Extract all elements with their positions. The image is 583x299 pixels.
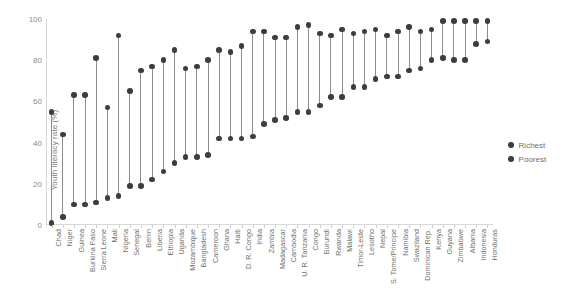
plot-area (46, 19, 493, 225)
x-axis-tick-label: Burkina Faso (88, 229, 97, 272)
range-connector-line (319, 33, 320, 105)
range-connector-line (219, 50, 220, 139)
x-axis-tick-mark (309, 225, 310, 228)
y-axis-tick-label: 100 (29, 15, 42, 24)
x-axis-tick-mark (186, 225, 187, 228)
y-axis-tick-label: 0 (38, 221, 42, 230)
x-axis-tick-label: Bangladesh (199, 229, 208, 267)
range-connector-line (230, 52, 231, 139)
data-point-poorest (306, 109, 312, 115)
data-point-richest (93, 55, 99, 61)
data-point-poorest (462, 57, 468, 63)
y-axis-tick-label: 80 (33, 56, 42, 65)
data-point-richest (295, 24, 301, 30)
x-axis-tick-mark (376, 225, 377, 228)
y-axis-line (46, 19, 47, 225)
x-axis-tick-mark (96, 225, 97, 228)
x-axis-tick-label: Kenya (434, 229, 443, 250)
data-point-richest (205, 57, 211, 63)
x-axis-tick-mark (432, 225, 433, 228)
range-connector-line (62, 134, 63, 216)
data-point-richest (161, 57, 167, 63)
data-point-poorest (272, 117, 278, 123)
data-point-poorest (71, 202, 77, 208)
data-point-poorest (429, 57, 435, 63)
data-point-richest (127, 88, 133, 94)
x-axis-tick-label: Lesotho (367, 229, 376, 255)
x-axis-tick-mark (163, 225, 164, 228)
range-connector-line (442, 21, 443, 58)
range-connector-line (420, 31, 421, 68)
data-point-richest (250, 29, 256, 35)
data-point-richest (339, 27, 345, 33)
data-point-poorest (116, 193, 122, 199)
data-point-richest (194, 64, 200, 70)
x-axis-tick-label: Guyana (445, 229, 454, 254)
x-axis-tick-label: Madagascar (278, 229, 287, 269)
y-axis-tick-label: 40 (33, 138, 42, 147)
data-point-richest (440, 18, 446, 24)
data-point-richest (272, 35, 278, 41)
data-point-poorest (395, 74, 401, 80)
x-axis-tick-label: Senegal (132, 229, 141, 256)
legend-item-label: Richest (519, 141, 546, 150)
range-connector-line (286, 38, 287, 118)
x-axis-tick-mark (219, 225, 220, 228)
x-axis-tick-mark (264, 225, 265, 228)
range-connector-line (174, 50, 175, 163)
x-axis-tick-label: Haiti (233, 229, 242, 244)
x-axis-tick-mark (52, 225, 53, 228)
range-connector-line (465, 21, 466, 60)
x-axis-tick-mark (297, 225, 298, 228)
x-axis-tick-mark (342, 225, 343, 228)
data-point-richest (362, 29, 368, 35)
x-axis-tick-mark (253, 225, 254, 228)
x-axis-tick-mark (130, 225, 131, 228)
data-point-poorest (82, 202, 88, 208)
y-axis-tick-label: 20 (33, 179, 42, 188)
data-point-richest (71, 92, 77, 98)
x-axis-tick-label: Indonesia (479, 229, 488, 261)
legend-item[interactable]: Richest (508, 139, 578, 151)
data-point-poorest (183, 154, 189, 160)
data-point-richest (149, 64, 155, 70)
x-axis-tick-mark (398, 225, 399, 228)
data-point-richest (384, 33, 390, 39)
data-point-poorest (295, 109, 301, 115)
range-connector-line (252, 31, 253, 136)
x-axis-tick-label: Honduras (490, 229, 499, 261)
range-connector-line (96, 58, 97, 202)
x-axis-tick-mark (242, 225, 243, 228)
range-connector-line (118, 36, 119, 197)
x-axis-tick-mark (454, 225, 455, 228)
x-axis-tick-label: Dominican Rep. (423, 229, 432, 281)
legend-item[interactable]: Poorest (508, 153, 578, 165)
x-axis-tick-label: Zimbabwe (456, 229, 465, 263)
x-axis-tick-mark (320, 225, 321, 228)
data-point-poorest (485, 39, 491, 45)
range-connector-line (107, 108, 108, 199)
data-point-poorest (161, 169, 167, 175)
x-axis-tick-label: Chad (54, 229, 63, 246)
range-connector-line (398, 31, 399, 76)
x-axis-tick-label: Uganda (177, 229, 186, 254)
x-axis-tick-label: Ghana (222, 229, 231, 251)
range-connector-line (297, 27, 298, 111)
y-axis-tick-labels: 020406080100 (26, 0, 42, 299)
x-axis-tick-mark (465, 225, 466, 228)
data-point-poorest (205, 152, 211, 158)
range-connector-line (163, 60, 164, 171)
x-axis-tick-mark (409, 225, 410, 228)
data-point-poorest (339, 94, 345, 100)
x-axis-tick-label: Timor-Leste (356, 229, 365, 268)
x-axis-tick-mark (85, 225, 86, 228)
x-axis-tick-label: Swaziland (412, 229, 421, 262)
x-axis-tick-mark (119, 225, 120, 228)
x-axis-tick-label: S. Tome/Principe (389, 229, 398, 284)
range-connector-line (375, 29, 376, 78)
data-point-poorest (418, 66, 424, 72)
data-point-richest (261, 29, 267, 35)
x-axis-tick-label: Nigeria (121, 229, 130, 252)
range-connector-line (129, 91, 130, 186)
data-point-richest (116, 33, 122, 39)
